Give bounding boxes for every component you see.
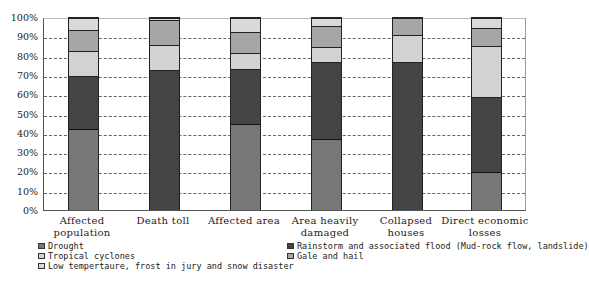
legend-label: Tropical cyclones [48,251,135,261]
y-tick-label: 90% [0,32,38,42]
bar-segment [312,18,341,26]
bar-segment [69,76,98,130]
bar-segment [69,51,98,76]
bar-segment [150,45,179,70]
bar [230,17,261,210]
y-tick-label: 10% [0,187,38,197]
plot-area [43,18,526,211]
bar-segment [472,97,501,172]
y-tick-label: 20% [0,167,38,177]
x-tick-label: Affectedpopulation [37,215,127,239]
y-tick-label: 80% [0,52,38,62]
legend-label: Rainstorm and associated flood (Mud-rock… [297,241,589,251]
bar-segment [150,70,179,210]
bar-segment [393,35,422,62]
legend-item-drought: Drought [38,241,294,251]
bar-segment [69,30,98,51]
y-tick-label: 60% [0,90,38,100]
legend-swatch [287,243,294,249]
x-tick-label: Affected area [199,215,289,239]
legend-left: Drought Tropical cyclones Low tempertaur… [38,241,294,271]
legend-label: Drought [48,241,84,251]
bar [392,17,423,210]
bar-segment [312,26,341,47]
legend-item-gale-and-hail: Gale and hail [287,251,589,261]
bar-segment [472,46,501,97]
legend-item-low-temperature: Low tempertaure, frost in jury and snow … [38,261,294,271]
legend-item-rainstorm: Rainstorm and associated flood (Mud-rock… [287,241,589,251]
bar-segment [69,129,98,210]
bar [471,17,502,210]
legend-right: Rainstorm and associated flood (Mud-rock… [287,241,589,261]
y-tick-label: 50% [0,110,38,120]
y-tick-label: 0% [0,206,38,216]
legend-label: Gale and hail [297,251,364,261]
y-tick-label: 40% [0,129,38,139]
x-tick-label: Direct economiclosses [440,215,530,239]
gridline [44,38,525,39]
bar [68,17,99,210]
x-tick-label: Death toll [118,215,208,239]
bar-segment [231,69,260,124]
x-tick-label: Collapsedhouses [361,215,451,239]
gridline [44,173,525,174]
y-tick-label: 100% [0,13,38,23]
bar-segment [231,32,260,52]
bar-segment [69,18,98,30]
bar-segment [312,139,341,210]
bar-segment [312,62,341,139]
gridline [44,135,525,136]
x-tick-label: Area heavilydamaged [280,215,370,239]
gridline [44,96,525,97]
gridline [44,193,525,194]
legend-item-tropical-cyclones: Tropical cyclones [38,251,294,261]
bar-segment [150,20,179,45]
legend-swatch [38,263,45,269]
legend-swatch [287,253,294,259]
bar [311,17,342,210]
bar-segment [393,18,422,35]
bar [149,17,180,210]
bar-segment [472,18,501,28]
legend-swatch [38,243,45,249]
bar-segment [393,62,422,210]
bar-segment [472,28,501,46]
bar-segment [231,124,260,210]
legend-swatch [38,253,45,259]
bar-segment [231,53,260,69]
bar-segment [231,18,260,32]
gridline [44,77,525,78]
y-tick-label: 30% [0,148,38,158]
bar-segment [472,172,501,210]
bar-segment [312,47,341,62]
gridline [44,116,525,117]
gridline [44,58,525,59]
legend-label: Low tempertaure, frost in jury and snow … [48,261,294,271]
y-tick-label: 70% [0,71,38,81]
gridline [44,154,525,155]
